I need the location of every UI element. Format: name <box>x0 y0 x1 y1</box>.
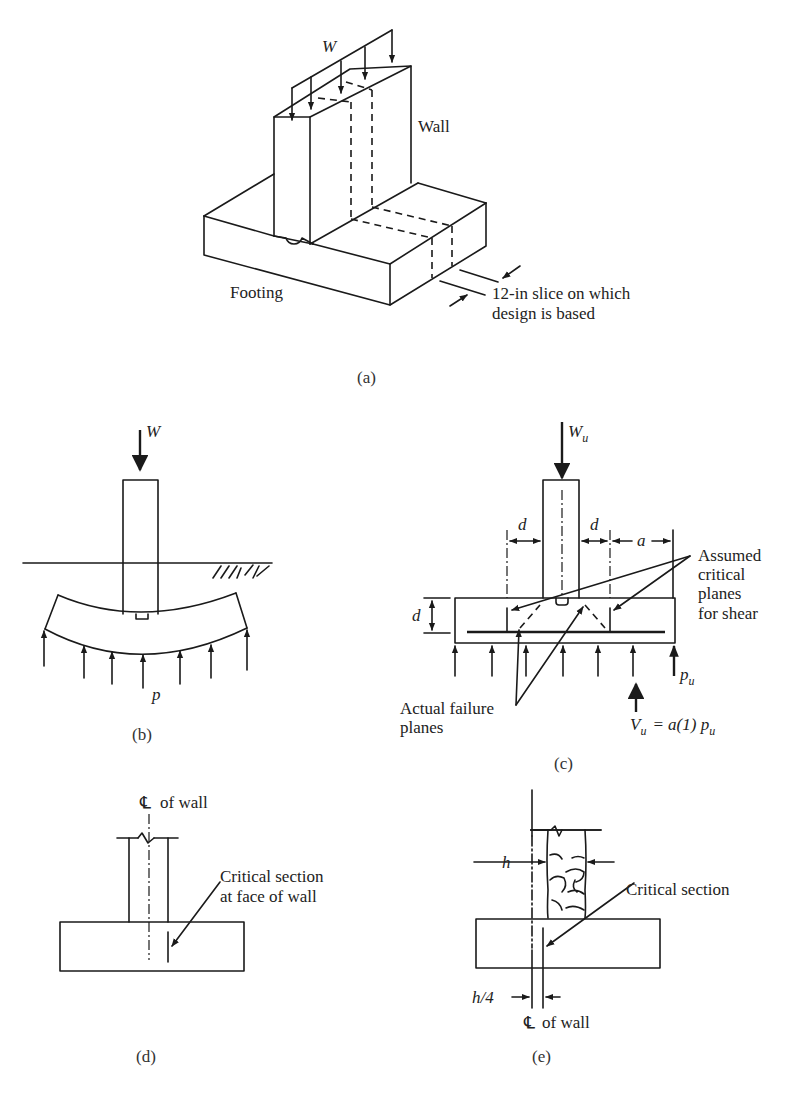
load-label-wu: Wu <box>568 422 588 445</box>
caption-a: (a) <box>357 368 376 387</box>
a-label: a <box>637 531 646 550</box>
shear-equation: Vu= a(1) pu <box>630 715 715 738</box>
slice-note-line2: design is based <box>492 304 595 323</box>
soil-pressure-arrows <box>44 630 247 688</box>
slice-note-line1: 12-in slice on which <box>492 284 631 303</box>
load-label-w: W <box>322 37 338 56</box>
d-left-label: d <box>518 515 527 534</box>
caption-b: (b) <box>132 725 152 744</box>
panel-c-shear: Wu d d a d Assumed cr <box>400 422 762 773</box>
caption-d: (d) <box>136 1047 156 1066</box>
pressure-label-pu: pu <box>679 665 695 688</box>
centerline-label-d: of wall <box>160 793 208 812</box>
h-label: h <box>502 853 511 872</box>
critical-d-line2: at face of wall <box>220 887 317 906</box>
panel-b-bending: W p (b) <box>23 422 272 744</box>
caption-e: (e) <box>532 1047 551 1066</box>
pressure-label-p: p <box>151 685 161 704</box>
wall-footing-figure: W Wall Footing 12-in slice on which desi… <box>0 0 801 1103</box>
distributed-load-arrows <box>292 30 392 120</box>
panel-e-masonry-wall: h Critical section h/4 ℄ of wall (e) <box>472 790 730 1066</box>
assumed-line2: critical <box>698 565 745 584</box>
centerline-symbol-d: ℄ <box>139 793 151 812</box>
assumed-line3: planes <box>698 584 741 603</box>
wall-label: Wall <box>418 117 450 136</box>
actual-line1: Actual failure <box>400 699 494 718</box>
panel-a-isometric: W Wall Footing 12-in slice on which desi… <box>204 30 631 387</box>
load-label-w-b: W <box>146 422 162 441</box>
actual-line2: planes <box>400 718 443 737</box>
d-right-label: d <box>590 515 599 534</box>
h4-label: h/4 <box>472 988 494 1007</box>
critical-e-label: Critical section <box>626 880 730 899</box>
d-vertical-label: d <box>412 606 421 625</box>
centerline-label-e: of wall <box>542 1013 590 1032</box>
masonry-stones <box>550 854 584 910</box>
soil-pressure-arrows-c <box>455 646 674 676</box>
centerline-symbol-e: ℄ <box>523 1013 535 1032</box>
critical-d-line1: Critical section <box>220 867 324 886</box>
assumed-line1: Assumed <box>698 546 762 565</box>
footing-label: Footing <box>230 283 283 302</box>
wall-block <box>274 66 452 278</box>
soil-hatch-icon <box>213 565 269 578</box>
assumed-line4: for shear <box>698 604 758 623</box>
panel-d-concrete-wall: ℄ of wall Critical section at face of wa… <box>60 793 324 1066</box>
caption-c: (c) <box>554 754 573 773</box>
